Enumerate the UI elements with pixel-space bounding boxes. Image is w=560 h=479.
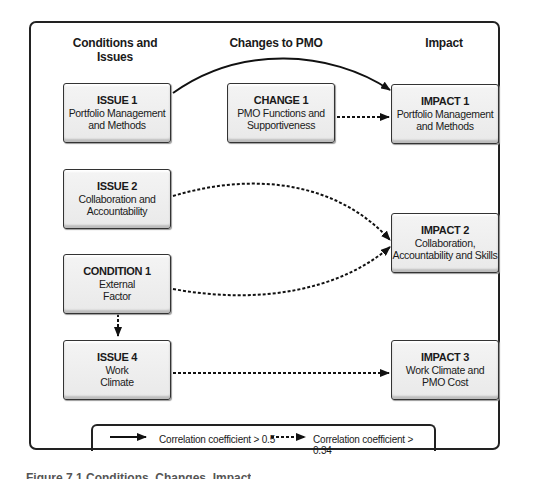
node-title: ISSUE 2: [64, 180, 170, 193]
node-condition-1: CONDITION 1 External Factor: [63, 254, 171, 314]
edge-issue2-impact2: [173, 184, 390, 240]
node-title: ISSUE 1: [64, 94, 170, 107]
node-text: PMO Functions and: [228, 107, 334, 120]
node-title: CHANGE 1: [228, 94, 334, 107]
node-title: CONDITION 1: [64, 265, 170, 278]
node-text: and Methods: [64, 119, 170, 132]
node-title: IMPACT 3: [392, 351, 498, 364]
node-impact-2: IMPACT 2 Collaboration, Accountability a…: [391, 213, 499, 273]
node-text: Portfolio Management: [392, 108, 498, 121]
node-issue-1: ISSUE 1 Portfolio Management and Methods: [63, 83, 171, 143]
edge-condition1-impact2: [173, 247, 390, 295]
node-text: Work Climate and: [392, 364, 498, 377]
node-text: Climate: [64, 376, 170, 389]
node-text: Collaboration,: [392, 237, 498, 250]
legend-dotted-label: Correlation coefficient > 0.34: [313, 434, 434, 456]
node-impact-1: IMPACT 1 Portfolio Management and Method…: [391, 84, 499, 144]
node-issue-2: ISSUE 2 Collaboration and Accountability: [63, 169, 171, 229]
legend-solid-label: Correlation coefficient > 0.5: [159, 434, 275, 445]
node-text: External: [64, 278, 170, 291]
node-title: IMPACT 1: [392, 95, 498, 108]
node-text: Supportiveness: [228, 119, 334, 132]
node-text: Accountability and Skills: [392, 249, 498, 262]
node-text: Collaboration and: [64, 193, 170, 206]
legend: Correlation coefficient > 0.5 Correlatio…: [91, 424, 436, 451]
node-change-1: CHANGE 1 PMO Functions and Supportivenes…: [227, 83, 335, 143]
node-text: Portfolio Management: [64, 107, 170, 120]
node-title: IMPACT 2: [392, 224, 498, 237]
node-text: and Methods: [392, 120, 498, 133]
node-text: PMO Cost: [392, 376, 498, 389]
node-impact-3: IMPACT 3 Work Climate and PMO Cost: [391, 340, 499, 400]
node-text: Work: [64, 364, 170, 377]
node-text: Factor: [64, 290, 170, 303]
node-title: ISSUE 4: [64, 351, 170, 364]
node-issue-4: ISSUE 4 Work Climate: [63, 340, 171, 400]
figure-caption: Figure 7.1 Conditions, Changes, Impact: [26, 467, 251, 479]
node-text: Accountability: [64, 205, 170, 218]
